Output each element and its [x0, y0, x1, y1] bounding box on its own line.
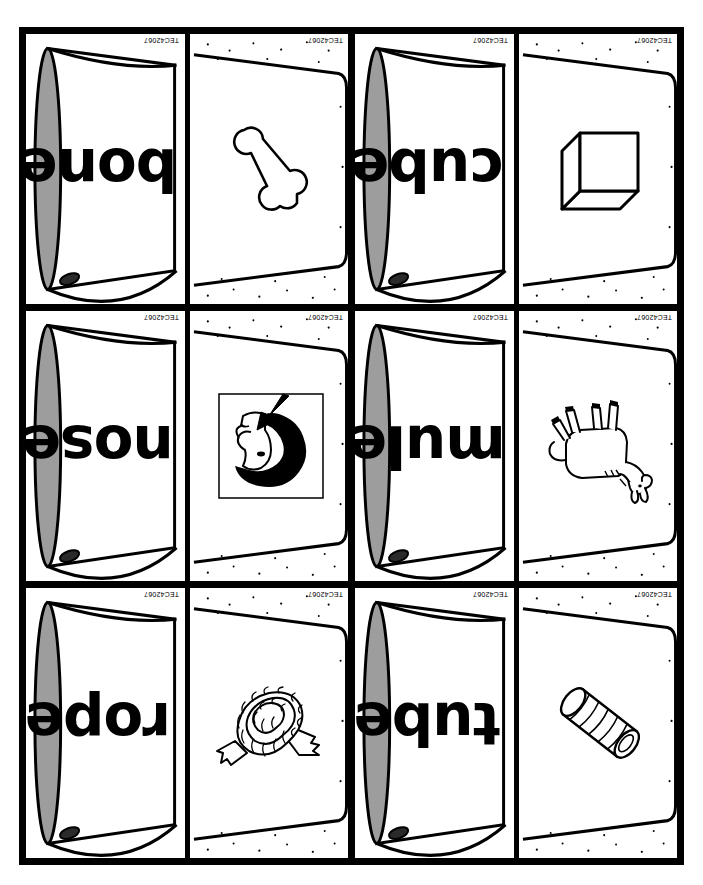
bone-icon [211, 109, 331, 229]
product-code: TEC42067 [308, 591, 343, 598]
product-code: TEC42067 [308, 37, 343, 44]
product-code: TEC42067 [473, 591, 508, 598]
word-card[interactable]: bone TEC42067 [26, 34, 185, 304]
bucket-illustration [26, 311, 185, 581]
flashcard-pair[interactable]: bone TEC42067 [26, 34, 348, 304]
nose-icon [211, 386, 331, 506]
picture-card[interactable]: TEC42067 [519, 311, 678, 581]
word-card[interactable]: rope TEC42067 [26, 588, 185, 858]
product-code: TEC42067 [308, 314, 343, 321]
bucket-illustration [355, 34, 514, 304]
picture-card[interactable]: TEC42067 [190, 588, 349, 858]
cube-icon [540, 109, 660, 229]
picture-card[interactable]: TEC42067 [519, 34, 678, 304]
word-card[interactable]: tube TEC42067 [355, 588, 514, 858]
product-code: TEC42067 [144, 37, 179, 44]
flashcard-pair[interactable]: rope TEC42067 [26, 588, 348, 858]
bucket-illustration [26, 34, 185, 304]
product-code: TEC42067 [637, 314, 672, 321]
flashcard-sheet: bone TEC42067 [0, 0, 703, 885]
flashcard-pair[interactable]: mule TEC42067 [355, 311, 677, 581]
picture-card[interactable]: TEC42067 [190, 311, 349, 581]
bucket-illustration [355, 588, 514, 858]
picture-card[interactable]: TEC42067 [190, 34, 349, 304]
flashcard-pair[interactable]: nose TEC42067 [26, 311, 348, 581]
flashcard-pair[interactable]: cube TEC42067 [355, 34, 677, 304]
mule-icon [540, 386, 660, 506]
product-code: TEC42067 [473, 314, 508, 321]
word-card[interactable]: nose TEC42067 [26, 311, 185, 581]
word-card[interactable]: cube TEC42067 [355, 34, 514, 304]
flashcard-pair[interactable]: tube TEC42067 [355, 588, 677, 858]
product-code: TEC42067 [144, 314, 179, 321]
rope-icon [211, 663, 331, 783]
word-card[interactable]: mule TEC42067 [355, 311, 514, 581]
bucket-illustration [26, 588, 185, 858]
product-code: TEC42067 [637, 591, 672, 598]
product-code: TEC42067 [144, 591, 179, 598]
bucket-illustration [355, 311, 514, 581]
picture-card[interactable]: TEC42067 [519, 588, 678, 858]
flashcard-grid: bone TEC42067 [19, 27, 684, 865]
product-code: TEC42067 [473, 37, 508, 44]
product-code: TEC42067 [637, 37, 672, 44]
tube-icon [540, 663, 660, 783]
